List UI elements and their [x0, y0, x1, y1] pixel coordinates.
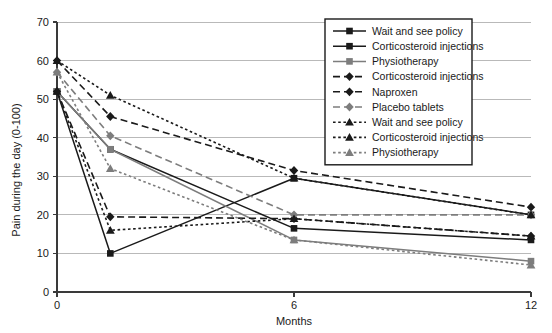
legend-item-label[interactable]: Corticosteroid injections [372, 40, 483, 52]
x-tick-label: 12 [525, 299, 537, 311]
legend: Wait and see policyCorticosteroid inject… [325, 19, 483, 165]
data-point-marker-square [291, 225, 298, 232]
data-point-marker-triangle [106, 164, 115, 172]
data-point-marker-square [346, 58, 353, 65]
data-point-marker-triangle [106, 91, 115, 99]
data-point-marker-diamond [106, 212, 114, 221]
x-tick-label: 0 [54, 299, 60, 311]
y-axis-title: Pain during the day (0-100) [10, 103, 22, 236]
legend-item-label[interactable]: Physiotherapy [372, 55, 439, 67]
chart-figure: 010203040506070 0612 Pain during the day… [0, 0, 552, 333]
y-tick-label: 30 [37, 170, 49, 182]
y-tick-label: 20 [37, 209, 49, 221]
data-point-marker-diamond [290, 166, 298, 175]
legend-item-label[interactable]: Naproxen [372, 86, 418, 98]
legend-item-label[interactable]: Wait and see policy [372, 116, 463, 128]
legend-item-label[interactable]: Placebo tablets [372, 101, 444, 113]
data-point-marker-square [346, 28, 353, 35]
legend-item-label[interactable]: Physiotherapy [372, 146, 439, 158]
data-point-marker-diamond [527, 203, 535, 212]
x-axis: 0612 [54, 292, 537, 311]
data-point-marker-square [107, 250, 114, 257]
y-tick-label: 10 [37, 247, 49, 259]
y-tick-label: 40 [37, 132, 49, 144]
y-tick-label: 50 [37, 93, 49, 105]
legend-item-label[interactable]: Corticosteroid injections [372, 131, 483, 143]
legend-item-label[interactable]: Corticosteroid injections [372, 70, 483, 82]
y-tick-label: 0 [43, 286, 49, 298]
data-point-marker-square [346, 43, 353, 50]
x-axis-title: Months [276, 315, 313, 327]
line-chart-svg: 010203040506070 0612 Pain during the day… [0, 0, 552, 333]
data-point-marker-square [107, 146, 114, 153]
y-tick-label: 60 [37, 55, 49, 67]
y-tick-label: 70 [37, 16, 49, 28]
data-point-marker-diamond [106, 112, 114, 121]
y-axis: 010203040506070 [37, 16, 57, 298]
legend-item-label[interactable]: Wait and see policy [372, 25, 463, 37]
x-tick-label: 6 [291, 299, 297, 311]
